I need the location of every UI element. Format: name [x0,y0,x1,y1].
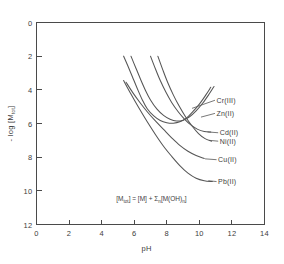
equation-annotation: [Mtot] = [M] + Σn[M(OH)n] [116,195,186,204]
y-tick-label: 0 [28,19,32,28]
x-tick-label: 14 [260,229,269,238]
curve-znii [131,56,214,121]
x-axis-ticks: 02468101214 [34,220,269,238]
y-tick-label: 12 [24,221,33,230]
x-axis-title: pH [141,244,151,253]
leader-line [201,113,215,117]
series-label-cdii: Cd(II) [220,129,239,137]
series-label-cuii: Cu(II) [218,156,237,164]
series-label-pbii: Pb(II) [218,178,236,186]
label-leader-lines [192,100,218,181]
y-tick-label: 10 [24,187,33,196]
annotation-equation: [Mtot] = [M] + Σn[M(OH)n] [116,195,186,204]
curve-cuii [126,82,204,158]
series-label-znii: Zn(II) [216,110,234,118]
x-tick-label: 0 [34,229,38,238]
series-labels: Cr(III)Zn(II)Cd(II)Ni(II)Cu(II)Pb(II) [216,97,238,186]
solubility-diagram-figure: 02468101214 024681012 Cr(III)Zn(II)Cd(II… [0,0,284,264]
leader-line [208,132,219,133]
y-tick-label: 4 [28,86,32,95]
leader-line [205,159,217,160]
y-axis-ticks: 024681012 [24,19,42,230]
chart-canvas: 02468101214 024681012 Cr(III)Zn(II)Cd(II… [0,0,284,264]
y-tick-label: 8 [28,153,32,162]
x-tick-label: 10 [195,229,204,238]
y-tick-label: 6 [28,120,32,129]
y-tick-label: 2 [28,52,32,61]
x-tick-label: 8 [165,229,169,238]
series-label-niii: Ni(II) [220,138,236,146]
y-axis-title: - log [Mtot] [6,106,16,142]
x-tick-label: 4 [99,229,103,238]
x-tick-label: 2 [67,229,71,238]
curve-criii [124,56,211,123]
data-curves [124,56,214,181]
x-tick-label: 6 [132,229,136,238]
series-label-criii: Cr(III) [216,97,235,105]
x-tick-label: 12 [227,229,236,238]
